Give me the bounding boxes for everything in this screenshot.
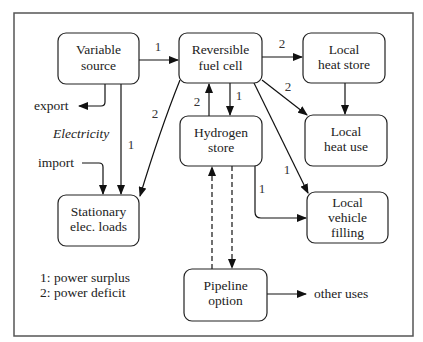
edge-label-fc-hs: 2: [279, 36, 286, 51]
node-local-vehicle-filling: Local vehicle filling: [307, 192, 388, 243]
node-fuel-cell-line2: fuel cell: [199, 58, 243, 73]
label-other-uses: other uses: [314, 286, 368, 301]
label-export: export: [34, 98, 69, 113]
node-heat-store-line1: Local: [329, 42, 360, 57]
node-heat-use-line1: Local: [331, 124, 362, 139]
edge-label-vs-fc: 1: [155, 39, 162, 54]
edge-label-h2-vf: 1: [259, 181, 266, 196]
legend: 1: power surplus 2: power deficit: [40, 270, 130, 300]
node-variable-source-line1: Variable: [76, 42, 121, 57]
node-hydrogen-store-line2: store: [208, 140, 234, 155]
energy-flow-diagram: 1 2 2 1 2 2 1 1 1 Variable source Revers…: [0, 0, 423, 342]
legend-line2: 2: power deficit: [40, 285, 126, 300]
label-electricity: Electricity: [52, 126, 109, 141]
node-stationary-loads-line1: Stationary: [71, 204, 127, 219]
node-local-heat-store: Local heat store: [303, 33, 385, 83]
node-local-heat-use: Local heat use: [305, 115, 387, 166]
label-import: import: [38, 155, 74, 170]
edge-label-h2-fc: 2: [194, 94, 201, 109]
node-hydrogen-store-line1: Hydrogen: [194, 125, 248, 140]
node-vehicle-filling-line2: vehicle: [328, 210, 367, 225]
node-heat-store-line2: heat store: [318, 57, 370, 72]
edge-label-fc-hu: 2: [285, 79, 292, 94]
edge-label-fc-sl: 2: [152, 106, 159, 121]
node-stationary-loads-line2: elec. loads: [70, 219, 127, 234]
node-fuel-cell-line1: Reversible: [192, 42, 250, 57]
node-hydrogen-store: Hydrogen store: [180, 116, 262, 166]
node-pipeline-line1: Pipeline: [203, 278, 247, 293]
node-pipeline-line2: option: [208, 293, 243, 308]
node-variable-source: Variable source: [58, 33, 139, 84]
node-variable-source-line2: source: [81, 58, 116, 73]
node-vehicle-filling-line3: filling: [331, 225, 364, 240]
node-pipeline-option: Pipeline option: [184, 269, 267, 321]
node-vehicle-filling-line1: Local: [332, 195, 363, 210]
node-reversible-fuel-cell: Reversible fuel cell: [179, 33, 262, 83]
edge-label-fc-h2: 1: [236, 88, 243, 103]
legend-line1: 1: power surplus: [40, 270, 130, 285]
node-stationary-elec-loads: Stationary elec. loads: [58, 195, 139, 246]
node-heat-use-line2: heat use: [324, 139, 368, 154]
edge-label-vs-sl: 1: [128, 137, 135, 152]
edge-label-fc-vf: 1: [284, 162, 291, 177]
